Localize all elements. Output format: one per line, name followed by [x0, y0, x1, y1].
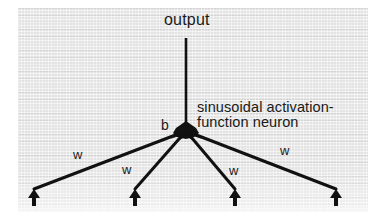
input-arrow-2: [129, 189, 141, 206]
neuron-caption: sinusoidal activation- function neuron: [197, 100, 334, 131]
weight-label-3: w: [229, 164, 238, 178]
input-arrow-3: [229, 189, 241, 206]
weight-edge-1: [34, 131, 186, 189]
bias-label: b: [161, 118, 169, 133]
neuron-caption-line-2: function neuron: [197, 115, 334, 130]
weight-label-4: w: [280, 144, 289, 158]
neuron-caption-line-1: sinusoidal activation-: [197, 100, 334, 115]
weight-label-1: w: [73, 148, 82, 162]
output-label: output: [164, 12, 210, 29]
figure-root: output b sinusoidal activation- function…: [0, 0, 375, 220]
weight-label-2: w: [122, 163, 131, 177]
weight-edge-4: [186, 131, 336, 189]
input-arrow-4: [330, 189, 342, 206]
input-arrow-1: [28, 189, 40, 206]
